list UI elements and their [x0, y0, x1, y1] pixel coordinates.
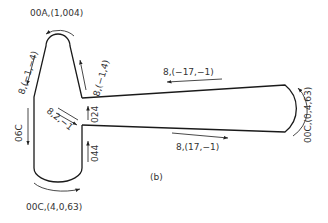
label-diagonal: 8,2,−1: [45, 106, 75, 133]
label-arm-bottom: 8,(17,−1): [176, 142, 219, 152]
label-right-upper: 8,(−1,4): [91, 59, 111, 98]
diagram-svg: 00A,(1,004) 8,(−1,−4) 8,(−1,4) 06C 8,2,−…: [0, 0, 328, 223]
arm-bottom-arrow: [172, 133, 228, 138]
label-right-arc: 00C,(0,4,63): [303, 87, 313, 143]
top-arc-arrow: [46, 30, 74, 36]
label-arm-vertical-upper: 024: [90, 106, 100, 123]
label-arm-vertical-lower: 044: [90, 145, 100, 162]
arm-top-arrow: [167, 79, 222, 82]
hammer-shape-diagram: 00A,(1,004) 8,(−1,−4) 8,(−1,4) 06C 8,2,−…: [0, 0, 328, 223]
label-bottom-arc: 00C,(4,0,63): [26, 202, 82, 212]
arm-outline: [82, 85, 296, 132]
label-top-arc: 00A,(1,004): [30, 8, 83, 18]
right-upper-arrow: [80, 60, 86, 90]
figure-caption: (b): [150, 172, 163, 182]
label-left-vertical: 06C: [14, 124, 24, 142]
label-arm-top: 8,(−17,−1): [163, 67, 214, 77]
bottom-arc-arrow: [34, 183, 80, 191]
